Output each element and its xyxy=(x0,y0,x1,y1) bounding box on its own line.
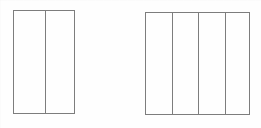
left-rectangle xyxy=(13,10,75,114)
right-rectangle xyxy=(145,12,250,115)
right-rectangle-divider-2 xyxy=(198,13,199,114)
left-rectangle-divider-1 xyxy=(45,11,46,113)
right-rectangle-divider-1 xyxy=(172,13,173,114)
figure-canvas xyxy=(0,0,261,128)
right-rectangle-divider-3 xyxy=(225,13,226,114)
